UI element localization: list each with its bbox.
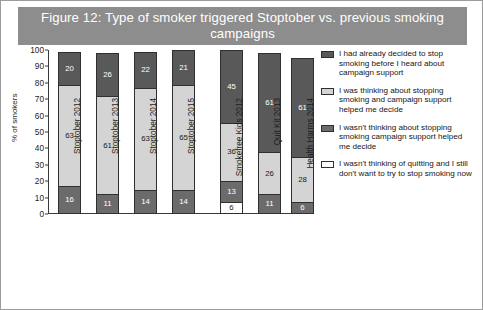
- x-tick-label: Stoptober 2012: [73, 98, 82, 218]
- x-tick-label: Health Harms 2014: [306, 98, 315, 218]
- bar-segment-value: 6: [229, 204, 233, 212]
- y-axis-label: % of smokers: [10, 94, 19, 142]
- bar-segment-value: 20: [65, 65, 74, 73]
- bar-segment-value: 6: [300, 204, 304, 212]
- bar-segment: 21: [172, 50, 195, 85]
- x-tick-label: Stoptober 2015: [187, 98, 196, 218]
- x-tick-label: Stoptober 2013: [111, 98, 120, 218]
- x-tick-label: Stoptober 2014: [149, 98, 158, 218]
- bar-segment: 20: [58, 52, 81, 85]
- legend-label: I wasn't thinking of quitting and I stil…: [339, 159, 473, 178]
- legend-label: I had already decided to stop smoking be…: [339, 49, 473, 78]
- bar-segment-value: 45: [227, 83, 236, 91]
- legend-item[interactable]: I had already decided to stop smoking be…: [321, 49, 473, 78]
- plot-wrapper: % of smokers 0102030405060708090100 1663…: [48, 50, 313, 214]
- legend-label: I was thinking about stopping smoking an…: [339, 86, 473, 115]
- legend-item[interactable]: I wasn't thinking about stopping smoking…: [321, 123, 473, 152]
- legend-label: I wasn't thinking about stopping smoking…: [339, 123, 473, 152]
- legend-item[interactable]: I was thinking about stopping smoking an…: [321, 86, 473, 115]
- bar-segment: 26: [96, 53, 119, 96]
- chart-legend: I had already decided to stop smoking be…: [321, 49, 473, 187]
- bar-segment-value: 22: [141, 66, 150, 74]
- legend-item[interactable]: I wasn't thinking of quitting and I stil…: [321, 159, 473, 178]
- x-tick-label: Quit Kit 2013: [273, 98, 282, 218]
- figure-container: Figure 12: Type of smoker triggered Stop…: [0, 0, 483, 310]
- bar-segment-value: 26: [103, 71, 112, 79]
- legend-swatch-icon: [321, 51, 334, 58]
- legend-swatch-icon: [321, 161, 334, 168]
- bar-segment-value: 21: [179, 64, 188, 72]
- legend-swatch-icon: [321, 125, 334, 132]
- legend-swatch-icon: [321, 88, 334, 95]
- figure-title: Figure 12: Type of smoker triggered Stop…: [18, 7, 467, 45]
- bar-segment: 22: [134, 52, 157, 88]
- x-tick-label: Smokefree Kids 2012: [235, 98, 244, 218]
